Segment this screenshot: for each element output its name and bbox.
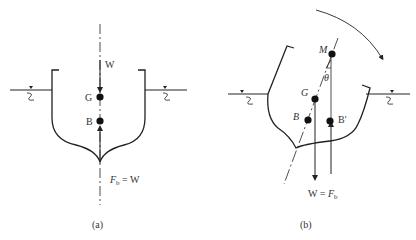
label-g: G [301,87,308,98]
water-level-icon [390,90,394,93]
point-b-prime [326,117,333,124]
wave-icon [386,97,393,104]
label-b-prime: B' [338,114,347,125]
caption-b: (b) [300,219,312,231]
label-b: B [293,111,299,122]
point-b [304,116,311,123]
angle-marker [326,60,331,68]
label-w: W [105,59,115,70]
label-g: G [85,92,92,103]
water-level-icon [29,86,33,89]
hull-heeled [268,46,370,148]
point-b [96,117,103,124]
panel-a: W G B Fb = W (a) [10,24,187,231]
point-g [311,95,318,102]
point-g [96,93,103,100]
label-m: M [318,44,328,55]
water-level-icon [240,90,244,93]
point-m [328,50,335,57]
label-fb-eq: Fb = W [109,174,140,187]
water-level-icon [163,86,167,89]
label-w-fb-eq: W = Fb [308,188,338,201]
hull [52,70,145,162]
wave-icon [246,97,253,104]
panel-b: M θ G B B' W = Fb (b) [228,10,410,231]
label-b: B [86,116,93,127]
caption-a: (a) [92,219,103,231]
wave-icon [163,93,170,100]
ship-stability-diagram: W G B Fb = W (a) M θ G B [0,0,416,240]
label-theta: θ [324,72,329,83]
wave-icon [27,93,34,100]
